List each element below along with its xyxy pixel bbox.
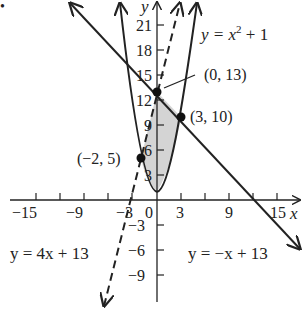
svg-text:15: 15 bbox=[136, 67, 152, 84]
x-axis bbox=[10, 193, 300, 200]
y-tick-labels: 21 18 15 12 9 6 3 −3 −6 −9 bbox=[128, 17, 152, 284]
svg-text:0: 0 bbox=[145, 204, 153, 221]
svg-text:−9: −9 bbox=[128, 267, 145, 284]
svg-text:21: 21 bbox=[136, 17, 152, 34]
svg-text:−3: −3 bbox=[128, 217, 145, 234]
svg-text:6: 6 bbox=[144, 142, 152, 159]
svg-text:18: 18 bbox=[136, 42, 152, 59]
point-0-13 bbox=[153, 88, 162, 97]
svg-text:9: 9 bbox=[144, 117, 152, 134]
svg-text:−9: −9 bbox=[66, 204, 83, 221]
svg-text:−6: −6 bbox=[128, 242, 145, 259]
point-label-3-10: (3, 10) bbox=[190, 108, 233, 126]
line-4x-equation-label: y = 4x + 13 bbox=[10, 244, 89, 263]
svg-text:3: 3 bbox=[176, 204, 184, 221]
svg-text:−15: −15 bbox=[12, 204, 37, 221]
x-tick-labels: −15 −9 −3 0 3 9 15 bbox=[12, 204, 286, 221]
point-label-neg2-5: (−2, 5) bbox=[77, 150, 121, 168]
line-neg-x-equation-label: y = −x + 13 bbox=[188, 244, 268, 263]
svg-text:12: 12 bbox=[136, 92, 152, 109]
point-3-10 bbox=[177, 113, 186, 122]
bullet-marker: • bbox=[0, 0, 5, 14]
parabola-equation-label: y = x2 + 1 bbox=[199, 23, 268, 44]
y-axis-label: y bbox=[139, 0, 149, 16]
leader-line-0-13 bbox=[164, 75, 195, 88]
svg-text:15: 15 bbox=[270, 204, 286, 221]
svg-text:9: 9 bbox=[225, 204, 233, 221]
graph-canvas: • bbox=[0, 0, 303, 312]
point-label-0-13: (0, 13) bbox=[204, 66, 247, 84]
x-axis-label: x bbox=[289, 204, 298, 223]
svg-text:3: 3 bbox=[144, 167, 152, 184]
